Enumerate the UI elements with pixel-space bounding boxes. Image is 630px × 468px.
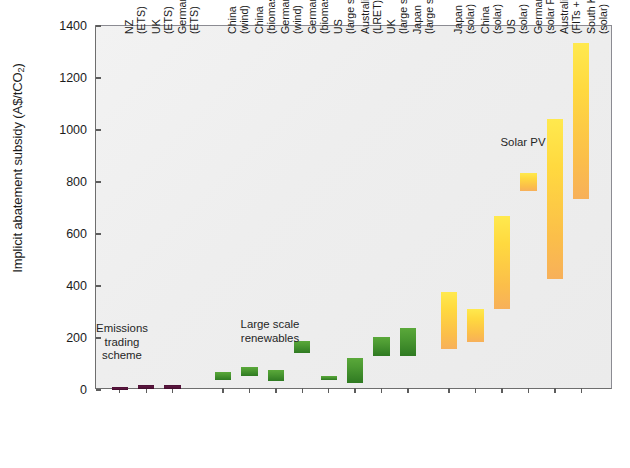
x-axis-tick [475,388,476,393]
x-axis-label-line2: (large scale) [345,0,357,34]
x-axis-tick [381,388,382,393]
bar-china-wind [215,372,231,380]
y-axis-title: Implicit abatement subsidy (A$/tCO2) [10,0,26,358]
annotation-line: Solar PV [501,136,546,150]
bar-australia-fits-sret [547,119,563,279]
bar-germany-ets [164,385,180,389]
x-axis-label-line2: (solar FITs) [544,0,556,34]
bar-germany-solar-fits [520,173,536,191]
chart-root: 0200400600800100012001400NZ(ETS)UK(ETS)G… [0,0,630,468]
x-axis-tick [302,388,303,393]
x-axis-label-line2: (biomass) [265,0,277,34]
x-axis-label-line1: China [226,6,238,34]
x-axis-tick [249,388,250,393]
annotation-line: scheme [96,349,148,363]
bar-japan-large-scale [400,328,416,356]
annotation-emissions: Emissionstradingscheme [96,322,148,363]
bar-germany-wind [268,370,284,381]
annotation-line: Emissions [96,322,148,336]
x-axis-label: US(solar) [506,4,529,34]
x-axis-label-line1: Australia [558,0,570,34]
x-axis-label-line1: Japan [411,5,423,34]
x-axis-tick [407,388,408,393]
x-axis-label-line1: South Korea [585,0,597,34]
annotation-line: renewables [241,332,300,346]
x-axis-label-line1: US [505,19,517,34]
annotation-solar-pv: Solar PV [501,136,546,150]
x-axis-label: South Korea(solar) [586,0,609,34]
x-axis-label-line1: Japan [452,5,464,34]
annotation-line: trading [96,336,148,350]
x-axis-label-line1: China [479,6,491,34]
x-axis-label-line2: (solar) [518,4,530,34]
bar-japan-solar [441,292,457,349]
x-axis-label: NZ(ETS) [124,6,147,34]
y-axis-tick-label: 1200 [59,71,96,85]
x-axis-label-line2: (biomass) [318,0,330,34]
x-axis-label: Australia(FITs + SRET) [559,0,582,34]
bar-uk-large-scale [373,337,389,356]
y-axis-tick-mark [96,129,101,130]
y-axis-tick-mark [96,77,101,78]
x-axis-label: Germany(ETS) [177,0,200,34]
x-axis-tick [581,388,582,393]
x-axis-label-line2: (LRET) [371,0,383,34]
x-axis-tick [222,388,223,393]
x-axis-label-line2: (solar) [491,4,503,34]
y-axis-tick-label: 400 [66,279,96,293]
x-axis-label-line2: (ETS) [162,6,174,34]
x-axis-label-line1: UK [150,19,162,34]
x-axis-label: Germany(solar FITs) [533,0,556,34]
x-axis-label-line2: (solar) [597,0,609,34]
bar-nz-ets [112,387,128,390]
x-axis-label: UK(large scale) [386,0,409,34]
x-axis-label-line1: Germany [279,0,291,34]
x-axis-label-line2: (ETS) [136,6,148,34]
bar-china-solar [467,309,483,342]
x-axis-tick [501,388,502,393]
x-axis-label-line1: Germany [176,0,188,34]
x-axis-label: Australia(LRET) [360,0,383,34]
x-axis-label-line1: US [332,19,344,34]
x-axis-label-line2: (large scale) [398,0,410,34]
x-axis-tick [275,388,276,393]
plot-area: 0200400600800100012001400NZ(ETS)UK(ETS)G… [95,25,612,389]
x-axis-label-line2: (FITs + SRET) [571,0,583,34]
x-axis-label-line2: (ETS) [189,0,201,34]
x-axis-label-line1: NZ [123,20,135,34]
bar-us-solar [494,216,510,309]
x-axis-label-line2: (large scale) [424,0,436,34]
annotation-large-scale: Large scalerenewables [241,318,300,345]
x-axis-label: China(solar) [480,4,503,34]
x-axis-tick [448,388,449,393]
y-axis-tick-mark [96,25,101,26]
y-axis-tick-label: 600 [66,227,96,241]
x-axis-tick [354,388,355,393]
x-axis-label: Germany(biomass) [307,0,330,34]
bar-south-korea-solar [573,43,589,199]
x-axis-tick [554,388,555,393]
bar-australia-lret [347,358,363,383]
bar-us-large-scale [321,376,337,380]
y-axis-tick-label: 1400 [59,19,96,33]
x-axis-label-line1: UK [385,19,397,34]
x-axis-label-line1: Germany [532,0,544,34]
y-axis-tick-mark [96,389,101,390]
x-axis-label-line1: China [253,6,265,34]
annotation-line: Large scale [241,318,300,332]
bar-china-biomass [241,367,257,376]
y-axis-tick-mark [96,181,101,182]
x-axis-label-line1: Australia [359,0,371,34]
y-axis-tick-mark [96,233,101,234]
x-axis-label-line2: (solar) [465,4,477,34]
x-axis-label: Germany(wind) [280,0,303,34]
y-axis-tick-label: 0 [80,383,96,397]
y-axis-tick-label: 1000 [59,123,96,137]
x-axis-label: Japan(solar) [453,4,476,34]
x-axis-label: China(biomass) [254,0,277,34]
x-axis-tick [528,388,529,393]
x-axis-tick [328,388,329,393]
y-axis-tick-label: 800 [66,175,96,189]
y-axis-tick-label: 200 [66,331,96,345]
x-axis-label: China(wind) [227,5,250,34]
